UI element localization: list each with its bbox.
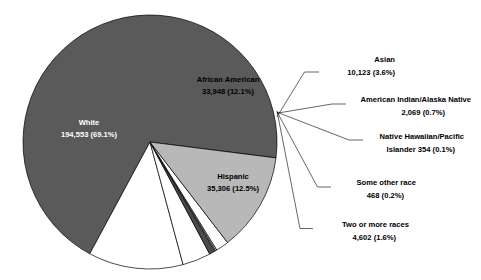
callout-label-asian-name: Asian	[374, 55, 395, 64]
slice-label-hispanic-value: 35,306 (12.5%)	[207, 184, 259, 193]
callout-label-native-hawaiian: Native Hawaiian/Pacific Islander 354 (0.…	[380, 132, 464, 154]
callout-label-native-hawaiian-name: Native Hawaiian/Pacific	[380, 132, 464, 141]
leader-line-two-or-more-races	[277, 111, 313, 229]
callout-label-native-hawaiian-value: Islander 354 (0.1%)	[387, 145, 456, 154]
leader-line-asian	[277, 72, 319, 117]
slice-label-white-name: White	[79, 118, 100, 127]
callout-label-some-other-race-value: 468 (0.2%)	[367, 191, 405, 200]
pie-slices-group	[23, 15, 277, 269]
callout-label-asian-value: 10,123 (3.6%)	[347, 68, 395, 77]
callout-label-two-or-more-races-name: Two or more races	[342, 220, 409, 229]
callout-label-two-or-more-races: Two or more races 4,602 (1.6%)	[342, 220, 409, 242]
slice-label-hispanic-name: Hispanic	[217, 172, 249, 181]
pie-chart-container: White 194,553 (69.1%) African American 3…	[0, 0, 481, 280]
leader-line-american-indian	[277, 104, 346, 113]
leader-lines-group	[277, 72, 363, 229]
slice-label-african-american-name: African American	[197, 75, 260, 84]
slice-label-african-american-value: 33,948 (12.1%)	[202, 87, 254, 96]
slice-label-white-value: 194,553 (69.1%)	[61, 130, 118, 139]
pie-chart-svg: White 194,553 (69.1%) African American 3…	[0, 0, 481, 280]
callout-label-asian: Asian 10,123 (3.6%)	[347, 55, 395, 77]
callout-label-american-indian-name: American Indian/Alaska Native	[360, 95, 471, 104]
leader-line-some-other-race	[277, 112, 331, 187]
callout-label-american-indian-value: 2,069 (0.7%)	[402, 108, 446, 117]
callout-label-two-or-more-races-value: 4,602 (1.6%)	[353, 233, 397, 242]
callout-label-some-other-race-name: Some other race	[356, 178, 416, 187]
callout-label-some-other-race: Some other race 468 (0.2%)	[356, 178, 416, 200]
callout-label-american-indian: American Indian/Alaska Native 2,069 (0.7…	[360, 95, 471, 117]
